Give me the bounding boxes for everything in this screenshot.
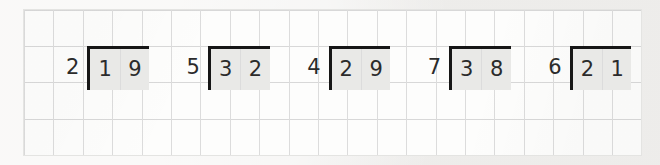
dividend-digit: 9	[361, 49, 390, 90]
division-worksheet: 2 1 9 5 3 2 4 2 9 7 3	[0, 0, 660, 165]
dividend-digit: 9	[120, 49, 149, 90]
division-bracket-icon: 3 8	[449, 46, 511, 90]
divisor: 5	[179, 46, 208, 90]
division-problem[interactable]: 7 3 8	[420, 46, 511, 90]
divisor: 7	[420, 46, 449, 90]
dividend-digit: 2	[332, 49, 361, 90]
dividend-digit: 3	[452, 49, 481, 90]
division-bracket-icon: 2 1	[570, 46, 632, 90]
dividend-digit: 2	[573, 49, 602, 90]
division-problem[interactable]: 4 2 9	[299, 46, 390, 90]
division-bracket-icon: 1 9	[87, 46, 149, 90]
divisor: 4	[299, 46, 328, 90]
division-problem-row: 2 1 9 5 3 2 4 2 9 7 3	[24, 46, 641, 90]
divisor: 6	[540, 46, 569, 90]
dividend-digit: 3	[211, 49, 240, 90]
division-problem[interactable]: 2 1 9	[58, 46, 149, 90]
division-problem[interactable]: 6 2 1	[540, 46, 631, 90]
division-bracket-icon: 3 2	[208, 46, 270, 90]
dividend-digit: 8	[481, 49, 510, 90]
division-problem[interactable]: 5 3 2	[179, 46, 270, 90]
divisor: 2	[58, 46, 87, 90]
dividend-digit: 2	[240, 49, 269, 90]
dividend-digit: 1	[602, 49, 631, 90]
dividend-digit: 1	[90, 49, 119, 90]
division-bracket-icon: 2 9	[329, 46, 391, 90]
